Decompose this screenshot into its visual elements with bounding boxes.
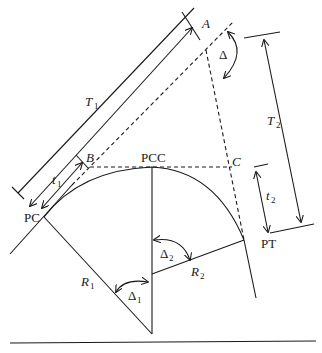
caption-divider [10,341,316,343]
label-b: B [86,150,94,165]
svg-text:2: 2 [169,253,174,263]
label-r1: R 1 [80,274,95,291]
label-delta2: Δ 2 [160,246,174,263]
compound-curve-diagram: A B C PCC PC PT Δ T 1 t 1 T 2 t 2 R 1 R … [0,0,322,353]
t1-dimension-line [18,8,194,193]
svg-text:T: T [267,113,275,128]
svg-text:2: 2 [271,195,276,205]
svg-text:Δ: Δ [128,288,136,303]
label-t2: T 2 [267,113,281,130]
svg-text:t: t [52,172,56,187]
label-pc: PC [24,210,40,225]
label-t1: T 1 [85,94,99,111]
svg-text:t: t [266,188,270,203]
curve-arc [44,167,244,240]
label-pt: PT [261,236,276,251]
back-tangent-line [10,185,72,254]
label-t2-small: t 2 [266,188,276,205]
svg-text:R: R [190,264,199,279]
label-t1-small: t 1 [52,172,62,189]
pt-tangent-line [270,224,314,233]
vertex-to-c-dashed [206,50,244,240]
label-pcc: PCC [141,150,166,165]
forward-tangent-line [244,240,256,298]
radius-r1 [44,217,152,334]
svg-text:Δ: Δ [160,246,168,261]
label-delta1: Δ 1 [128,288,142,305]
svg-text:1: 1 [90,281,95,291]
label-a: A [201,16,210,31]
svg-text:2: 2 [200,271,205,281]
svg-text:R: R [80,274,89,289]
svg-text:1: 1 [137,295,142,305]
label-c: C [232,154,241,169]
svg-text:1: 1 [57,179,62,189]
label-delta: Δ [219,47,227,62]
svg-text:1: 1 [94,101,99,111]
svg-text:2: 2 [276,120,281,130]
svg-text:T: T [85,94,93,109]
label-r2: R 2 [190,264,205,281]
